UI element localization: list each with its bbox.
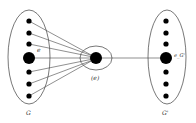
graph-diagram: e (e) e_G' G G' (0, 0, 196, 123)
edge-label-e: e (37, 46, 41, 53)
right-node-label: e_G' (174, 52, 185, 59)
center-node (90, 52, 102, 64)
right-set-label: G' (162, 109, 169, 116)
left-set-label: G (26, 109, 31, 116)
center-node-label: (e) (91, 74, 100, 81)
left-nodes (23, 18, 35, 98)
right-nodes (160, 18, 172, 98)
